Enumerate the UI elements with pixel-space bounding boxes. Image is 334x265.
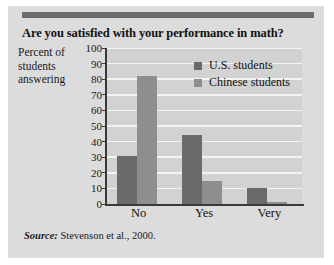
category-label-no: No (131, 206, 146, 221)
y-tick-label: 10 (91, 182, 102, 194)
gridline (106, 110, 302, 112)
top-rule (22, 12, 314, 18)
y-tick-label: 30 (91, 151, 102, 163)
chart-legend: U.S. students Chinese students (194, 58, 290, 92)
legend-item-us: U.S. students (194, 58, 290, 73)
y-tick-label: 60 (91, 104, 102, 116)
y-tick-mark (102, 172, 106, 173)
bar-chinese-no (137, 76, 157, 204)
y-tick-mark (102, 126, 106, 127)
y-tick-mark (102, 110, 106, 111)
legend-label-us: U.S. students (209, 58, 273, 73)
y-axis-title: Percent of students answering (18, 46, 84, 87)
y-tick-mark (102, 141, 106, 142)
category-label-very: Very (258, 206, 282, 221)
chart-figure: Are you satisfied with your performance … (8, 6, 324, 258)
y-tick-label: 70 (91, 89, 102, 101)
y-tick-label: 40 (91, 136, 102, 148)
y-tick-label: 80 (91, 73, 102, 85)
gridline (106, 94, 302, 96)
legend-label-chinese: Chinese students (209, 75, 290, 90)
gridline (106, 141, 302, 143)
gridline (106, 48, 302, 49)
source-note: Source: Stevenson et al., 2000. (24, 230, 156, 241)
legend-swatch-icon-us (194, 62, 202, 70)
bar-chinese-yes (202, 181, 222, 204)
y-tick-mark (102, 188, 106, 189)
legend-swatch-icon-chinese (194, 79, 202, 87)
y-tick-label: 50 (91, 120, 102, 132)
category-label-yes: Yes (195, 206, 213, 221)
bar-us-yes (182, 135, 202, 204)
y-tick-mark (102, 204, 106, 205)
source-label: Source: (24, 230, 58, 241)
y-tick-mark (102, 48, 106, 49)
y-tick-label: 90 (91, 58, 102, 70)
y-tick-mark (102, 63, 106, 64)
y-tick-mark (102, 79, 106, 80)
source-text: Stevenson et al., 2000. (60, 230, 155, 241)
y-tick-mark (102, 157, 106, 158)
y-tick-label: 20 (91, 167, 102, 179)
bar-us-very (247, 188, 267, 204)
legend-item-chinese: Chinese students (194, 75, 290, 90)
y-tick-mark (102, 94, 106, 95)
chart-title: Are you satisfied with your performance … (22, 26, 316, 41)
y-tick-label: 100 (86, 42, 103, 54)
bar-us-no (117, 156, 137, 204)
gridline (106, 125, 302, 127)
